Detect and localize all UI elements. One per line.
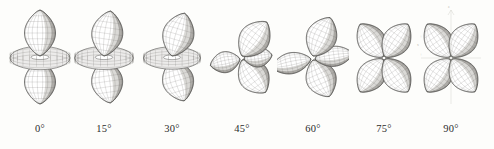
orbital-panel-30: 30°: [136, 0, 208, 149]
orbital-diagram-90: zyx++−−: [415, 0, 487, 118]
axis-annotation-plus: +: [420, 54, 422, 58]
angle-label-15: 15°: [68, 124, 140, 135]
orbital-diagram-0: [4, 0, 76, 118]
orbital-diagram-15: [68, 0, 140, 118]
angle-label-60: 60°: [277, 124, 349, 135]
angle-label-0: 0°: [4, 124, 76, 135]
axis-annotation-y: y: [475, 44, 477, 48]
axis-annotation-plus: +: [420, 36, 422, 40]
orbital-panel-15: 15°: [68, 0, 140, 149]
orbital-diagram-30: [136, 0, 208, 118]
axis-annotation-z: z: [448, 6, 450, 10]
axis-annotation-x: x: [417, 44, 419, 48]
angle-label-45: 45°: [206, 124, 278, 135]
orbital-diagram-60: [277, 0, 349, 118]
orbital-sequence-figure: 0°15°30°45°60°75°zyx++−−90°: [0, 0, 494, 149]
orbital-diagram-45: [206, 0, 278, 118]
axis-overlay: [415, 0, 487, 118]
orbital-panel-0: 0°: [4, 0, 76, 149]
axis-annotation-minus: −: [445, 80, 447, 84]
orbital-panel-45: 45°: [206, 0, 278, 149]
orbital-panel-75: 75°: [348, 0, 420, 149]
orbital-panel-90: zyx++−−90°: [415, 0, 487, 149]
angle-label-90: 90°: [415, 124, 487, 135]
orbital-panel-60: 60°: [277, 0, 349, 149]
axis-annotation-minus: −: [470, 36, 472, 40]
angle-label-75: 75°: [348, 124, 420, 135]
angle-label-30: 30°: [136, 124, 208, 135]
orbital-diagram-75: [348, 0, 420, 118]
